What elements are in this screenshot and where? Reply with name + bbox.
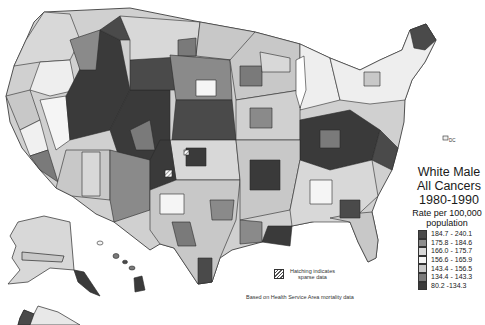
legend-swatch bbox=[418, 282, 427, 291]
legend-label: 80.2 -134.3 bbox=[431, 282, 466, 290]
legend-swatch bbox=[418, 247, 427, 256]
legend-item: 166.0 - 175.7 bbox=[418, 247, 472, 256]
legend-swatch bbox=[418, 273, 427, 282]
legend-label: 134.4 - 143.3 bbox=[431, 273, 472, 281]
hatching-note-line2: sparse data bbox=[290, 274, 335, 280]
legend-caption-line2: population bbox=[409, 218, 485, 228]
map-title-line1: White Male bbox=[414, 165, 484, 179]
choropleth-map bbox=[0, 0, 485, 325]
legend-label: 184.7 - 240.1 bbox=[431, 230, 472, 238]
legend-caption-line1: Rate per 100,000 bbox=[409, 208, 485, 218]
hatching-note-text: Hatching indicates sparse data bbox=[290, 268, 335, 280]
map-title-line2: All Cancers bbox=[414, 179, 484, 193]
dc-box bbox=[443, 136, 448, 140]
map-title-line3: 1980-1990 bbox=[414, 193, 484, 207]
legend: 184.7 - 240.1 175.8 - 184.6 166.0 - 175.… bbox=[418, 230, 472, 290]
legend-item: 184.7 - 240.1 bbox=[418, 230, 472, 239]
legend-item: 80.2 -134.3 bbox=[418, 282, 472, 291]
legend-item: 175.8 - 184.6 bbox=[418, 239, 472, 248]
legend-label: 143.4 - 156.5 bbox=[431, 265, 472, 273]
legend-swatch bbox=[418, 230, 427, 239]
legend-label: 156.6 - 165.9 bbox=[431, 256, 472, 264]
legend-swatch bbox=[418, 239, 427, 248]
hatch-swatch-icon bbox=[274, 269, 284, 279]
legend-caption: Rate per 100,000 population bbox=[409, 208, 485, 228]
legend-item: 156.6 - 165.9 bbox=[418, 256, 472, 265]
alaska bbox=[8, 216, 100, 296]
legend-label: 166.0 - 175.7 bbox=[431, 247, 472, 255]
legend-swatch bbox=[418, 256, 427, 265]
legend-item: 143.4 - 156.5 bbox=[418, 264, 472, 273]
dc-label: DC bbox=[449, 138, 456, 143]
partial-inset bbox=[18, 306, 80, 325]
source-note: Based on Health Service Area mortality d… bbox=[246, 294, 354, 300]
legend-swatch bbox=[418, 264, 427, 273]
hatching-note: Hatching indicates sparse data bbox=[274, 268, 335, 280]
legend-item: 134.4 - 143.3 bbox=[418, 273, 472, 282]
hawaii bbox=[97, 241, 145, 292]
legend-label: 175.8 - 184.6 bbox=[431, 239, 472, 247]
